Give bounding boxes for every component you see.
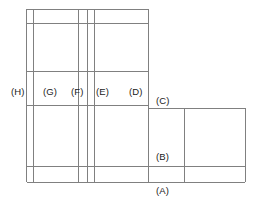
label-h: (H) bbox=[11, 87, 25, 97]
label-e: (E) bbox=[96, 87, 109, 97]
technical-line-drawing bbox=[0, 0, 255, 206]
label-g: (G) bbox=[43, 87, 57, 97]
label-d: (D) bbox=[129, 87, 143, 97]
label-f: (F) bbox=[71, 87, 83, 97]
label-c: (C) bbox=[156, 96, 170, 106]
label-a: (A) bbox=[156, 186, 169, 196]
figure-svg bbox=[0, 0, 255, 206]
label-b: (B) bbox=[156, 152, 169, 162]
